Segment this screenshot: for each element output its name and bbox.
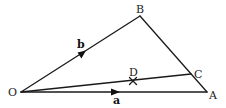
vector-label-a: a [113,94,120,107]
point-label-O: O [8,86,17,99]
triangle-vector-diagram: O A B C D a b [0,0,226,108]
point-label-A: A [208,89,218,102]
segment-OC [21,74,191,92]
point-label-B: B [136,3,144,16]
vector-label-b: b [77,38,85,51]
point-label-C: C [194,68,202,81]
point-label-D: D [129,66,138,79]
